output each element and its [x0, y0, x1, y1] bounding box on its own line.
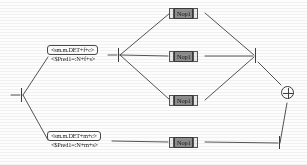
edge-fork-to-nop-lower [120, 55, 170, 100]
circled-plus-icon [281, 86, 294, 99]
operation-node-nop-bottom[interactable]: Nop1 [169, 137, 198, 148]
edge-fork-to-nop-middle [120, 55, 168, 56]
edge-start-to-fem [23, 57, 48, 95]
feature-node-masc-sing[interactable]: <sm.m.DET+m+c> <$Pred1=:N+m+s> [47, 131, 101, 149]
operation-node-nop-middle-label: Nop1 [174, 51, 193, 62]
operation-node-nop-top-label: Nop1 [174, 8, 193, 19]
nop-right-cap-icon [193, 137, 198, 148]
feature-node-fem-sing[interactable]: <sm.m.DET+f+c> <$Pred1=:N+f+s> [47, 45, 98, 63]
edge-junction-to-end [280, 103, 287, 143]
feature-node-masc-sing-sublabel: <$Pred1=:N+m+s> [47, 141, 101, 149]
operation-node-nop-top[interactable]: Nop1 [169, 8, 198, 19]
edge-masc-to-nop-bottom [112, 141, 168, 142]
plus-vertical-stroke [288, 88, 289, 99]
edge-start-to-masc [23, 95, 48, 140]
nop-right-cap-icon [193, 8, 198, 19]
edge-nop-lower-to-join [205, 57, 254, 100]
join-bar-icon [255, 48, 256, 63]
edge-join-to-end [258, 62, 281, 85]
operation-node-nop-lower-label: Nop1 [174, 95, 193, 106]
edge-fork-to-nop-top [120, 13, 170, 55]
bottom-junction-bar-icon [279, 136, 280, 149]
nop-right-cap-icon [193, 51, 198, 62]
edge-nop-bottom-to-junction [205, 142, 278, 143]
feature-node-fem-sing-sublabel: <$Pred1=:N+f+s> [47, 55, 98, 63]
plus-horizontal-stroke [283, 93, 294, 94]
edge-nop-top-to-join [205, 13, 254, 55]
diagram-canvas: <sm.m.DET+f+c> <$Pred1=:N+f+s> <sm.m.DET… [0, 0, 307, 165]
start-bar-icon [21, 88, 22, 102]
nop-right-cap-icon [193, 95, 198, 106]
fork-bar-icon [118, 48, 119, 62]
feature-node-fem-sing-label: <sm.m.DET+f+c> [47, 45, 98, 55]
feature-node-masc-sing-label: <sm.m.DET+m+c> [47, 131, 101, 141]
operation-node-nop-middle[interactable]: Nop1 [169, 51, 198, 62]
operation-node-nop-lower[interactable]: Nop1 [169, 95, 198, 106]
operation-node-nop-bottom-label: Nop1 [174, 137, 193, 148]
